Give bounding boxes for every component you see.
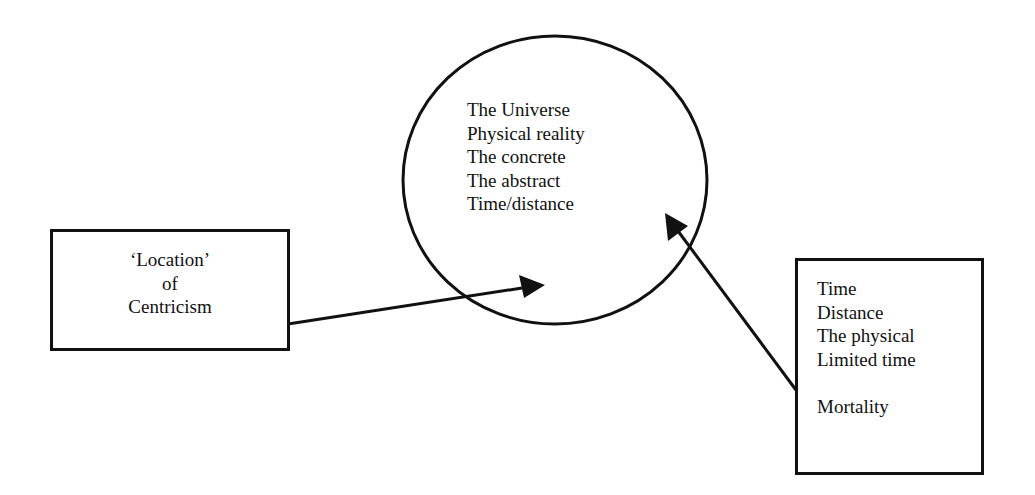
arrow-left-to-circle-line [288,288,522,324]
circle-line-concrete: The concrete [467,145,585,169]
right-box-line-time: Time [817,277,981,301]
left-box-line-location: ‘Location’ [53,248,287,272]
arrowhead-right-to-circle-icon [665,213,688,241]
left-box-line-of: of [53,272,287,296]
right-box-line-physical: The physical [817,324,981,348]
arrowhead-left-to-circle-icon [519,275,545,298]
central-circle-text: The Universe Physical reality The concre… [467,98,585,216]
left-box-line-centricism: Centricism [53,295,287,319]
right-box-line-mortality: Mortality [817,395,981,419]
location-of-centricism-box: ‘Location’ of Centricism [50,229,290,351]
right-box-blank-line [817,371,981,395]
arrow-right-to-circle-line [678,231,796,390]
right-box-line-limited-time: Limited time [817,348,981,372]
circle-line-physical-reality: Physical reality [467,122,585,146]
circle-line-abstract: The abstract [467,169,585,193]
circle-line-universe: The Universe [467,98,585,122]
time-mortality-box: Time Distance The physical Limited time … [795,258,984,475]
right-box-line-distance: Distance [817,301,981,325]
circle-line-time-distance: Time/distance [467,192,585,216]
diagram-canvas: The Universe Physical reality The concre… [0,0,1035,495]
